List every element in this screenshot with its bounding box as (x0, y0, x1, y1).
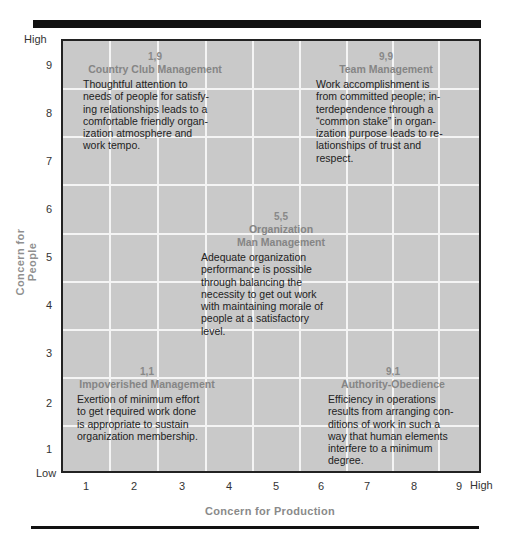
y-tick-2: 2 (32, 397, 52, 409)
style-authority-obedience: 9,1 Authority-Obedience Efficiency in op… (328, 366, 481, 467)
bottom-rule (31, 526, 479, 529)
x-tick-7: 7 (357, 480, 377, 492)
x-tick-5: 5 (266, 480, 286, 492)
style-name-line2: Man Management (201, 236, 361, 249)
style-name: Country Club Management (80, 63, 230, 76)
y-axis-title: Concern for People (14, 212, 38, 312)
style-coord: 5,5 (201, 211, 361, 223)
y-tick-8: 8 (32, 107, 52, 119)
y-tick-9: 9 (32, 59, 52, 71)
style-name: Team Management (316, 63, 456, 76)
style-description: Efficiency in operations results from ar… (328, 393, 481, 467)
x-tick-6: 6 (311, 480, 331, 492)
y-axis-low-label: Low (36, 467, 56, 479)
style-coord: 1,1 (77, 366, 217, 378)
style-organization-man: 5,5 Organization Man Management Adequate… (201, 211, 371, 337)
style-team: 9,9 Team Management Work accomplishment … (316, 51, 481, 164)
y-tick-7: 7 (32, 155, 52, 167)
style-name: Authority-Obedience (328, 378, 458, 391)
grid-hline (63, 184, 479, 186)
x-axis-title: Concern for Production (170, 505, 370, 517)
x-tick-3: 3 (172, 480, 192, 492)
x-tick-2: 2 (124, 480, 144, 492)
y-tick-1: 1 (32, 443, 52, 455)
y-axis-high-label: High (24, 33, 47, 45)
style-name: Impoverished Management (77, 378, 217, 391)
style-description: Adequate organization performance is pos… (201, 251, 371, 337)
style-country-club: 1,9 Country Club Management Thoughtful a… (80, 51, 250, 152)
top-rule (33, 20, 481, 28)
managerial-grid: 1,9 Country Club Management Thoughtful a… (61, 39, 481, 473)
style-coord: 1,9 (80, 51, 230, 63)
x-tick-9: 9 (449, 480, 469, 492)
style-description: Thoughtful attention to needs of people … (80, 78, 250, 152)
x-tick-4: 4 (219, 480, 239, 492)
x-axis-high-label: High (470, 479, 493, 491)
x-tick-8: 8 (404, 480, 424, 492)
y-tick-3: 3 (32, 347, 52, 359)
style-name-line1: Organization (201, 223, 361, 236)
style-description: Exertion of minimum effort to get requir… (77, 393, 252, 442)
style-impoverished: 1,1 Impoverished Management Exertion of … (77, 366, 252, 442)
x-tick-1: 1 (76, 480, 96, 492)
style-coord: 9,1 (328, 366, 458, 378)
style-description: Work accomplishment is from committed pe… (316, 78, 481, 164)
style-coord: 9,9 (316, 51, 456, 63)
